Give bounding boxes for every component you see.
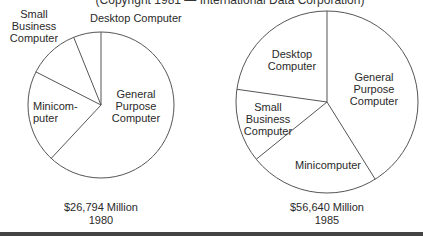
label-line: Purpose (346, 83, 402, 95)
label-1980-small-business: Small Business Computer (6, 8, 62, 44)
label-line: General (108, 88, 164, 100)
label-1985-desktop: Desktop Computer (264, 48, 320, 72)
caption-1985: $56,640 Million 1985 (257, 201, 397, 227)
label-line: Small (240, 101, 296, 113)
label-line: Computer (240, 125, 296, 137)
label-line: Business (240, 113, 296, 125)
label-line: Desktop Computer (90, 12, 182, 24)
label-line: Small (6, 8, 62, 20)
label-line: Computer (264, 60, 320, 72)
label-1980-desktop: Desktop Computer (90, 12, 182, 24)
label-line: Minicomputer (286, 159, 370, 171)
bottom-rule (0, 232, 423, 236)
label-line: Minicom- (33, 100, 78, 112)
label-line: Computer (346, 95, 402, 107)
label-1985-general-purpose: General Purpose Computer (346, 71, 402, 107)
label-1985-minicomputer: Minicomputer (286, 159, 370, 171)
total-1980: $26,794 Million (31, 201, 171, 214)
label-line: Computer (108, 112, 164, 124)
label-line: General (346, 71, 402, 83)
year-1980: 1980 (31, 214, 171, 227)
label-1980-general-purpose: General Purpose Computer (108, 88, 164, 124)
label-line: puter (33, 112, 78, 124)
total-1985: $56,640 Million (257, 201, 397, 214)
label-line: Purpose (108, 100, 164, 112)
year-1985: 1985 (257, 214, 397, 227)
label-line: Desktop (264, 48, 320, 60)
label-1985-small-business: Small Business Computer (240, 101, 296, 137)
label-1980-minicomputer: Minicom- puter (33, 100, 78, 124)
label-line: Business (6, 20, 62, 32)
caption-1980: $26,794 Million 1980 (31, 201, 171, 227)
label-line: Computer (6, 32, 62, 44)
